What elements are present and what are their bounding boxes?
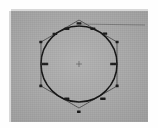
dimension-marker[interactable] <box>77 111 81 113</box>
dimension-marker[interactable] <box>39 85 42 88</box>
dimension-marker[interactable] <box>42 63 48 66</box>
dimension-marker[interactable] <box>116 41 119 44</box>
drawing-panel[interactable] <box>11 11 148 122</box>
dimension-marker[interactable] <box>64 28 69 30</box>
dimension-marker[interactable] <box>64 98 69 100</box>
center-marker-icon <box>76 61 82 67</box>
dimension-marker[interactable] <box>110 63 116 66</box>
dimension-marker[interactable] <box>77 22 82 24</box>
technical-drawing-figure[interactable] <box>11 11 148 122</box>
dimension-marker[interactable] <box>103 33 108 35</box>
dimension-marker[interactable] <box>90 28 95 30</box>
dimension-marker[interactable] <box>100 98 105 100</box>
leader-line <box>79 24 145 25</box>
dimension-marker[interactable] <box>116 85 119 88</box>
screenshot-viewport <box>0 0 158 128</box>
dimension-marker[interactable] <box>39 41 42 44</box>
dimension-marker[interactable] <box>53 33 58 35</box>
